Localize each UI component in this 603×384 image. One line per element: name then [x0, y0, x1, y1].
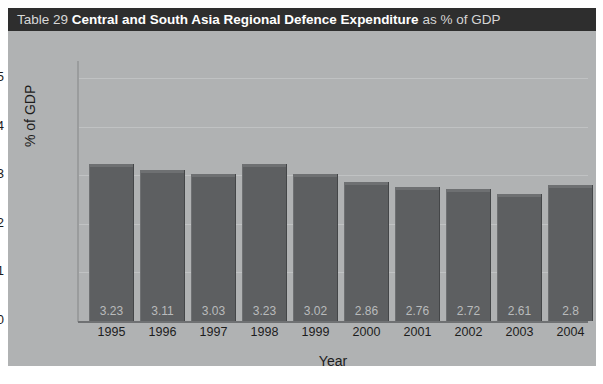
bar[interactable]: 3.23 [242, 164, 287, 321]
bar-top-edge [90, 164, 133, 167]
bar-value-label: 2.76 [396, 304, 439, 318]
bar-value-label: 2.61 [498, 304, 541, 318]
bar-value-label: 3.23 [90, 304, 133, 318]
bar[interactable]: 3.02 [293, 174, 338, 321]
y-axis-tick-label: 5 [0, 69, 4, 84]
y-axis-line [77, 61, 79, 322]
bar-value-label: 3.03 [192, 304, 235, 318]
bar-top-edge [447, 189, 490, 192]
y-axis-tick-label: 1 [0, 263, 4, 278]
x-axis-tick-label: 1999 [293, 325, 338, 339]
bar-top-edge [294, 174, 337, 177]
chart-title-bar: Table 29 Central and South Asia Regional… [8, 8, 596, 31]
x-axis-tick-label: 2001 [395, 325, 440, 339]
y-axis-tick-label: 3 [0, 166, 4, 181]
y-axis-tick-label: 0 [0, 312, 4, 327]
x-axis-tick-label: 1995 [89, 325, 134, 339]
bar-top-edge [243, 164, 286, 167]
bar-top-edge [549, 185, 592, 188]
chart-title-main: Central and South Asia Regional Defence … [72, 12, 419, 27]
y-axis-tick-label: 2 [0, 215, 4, 230]
y-axis-tick-label: 4 [0, 118, 4, 133]
bar[interactable]: 2.72 [446, 189, 491, 321]
bar-top-edge [396, 187, 439, 190]
bar[interactable]: 3.23 [89, 164, 134, 321]
bar[interactable]: 2.61 [497, 194, 542, 321]
bar-top-edge [192, 174, 235, 177]
bar-top-edge [345, 182, 388, 185]
x-axis-title: Year [78, 353, 588, 369]
bar-top-edge [498, 194, 541, 197]
bar[interactable]: 2.8 [548, 185, 593, 321]
x-axis-tick-label: 2000 [344, 325, 389, 339]
x-axis-tick-label: 1997 [191, 325, 236, 339]
bar[interactable]: 2.76 [395, 187, 440, 321]
gridline [78, 78, 588, 79]
x-axis-tick-label: 2003 [497, 325, 542, 339]
bar-value-label: 3.02 [294, 304, 337, 318]
bar[interactable]: 2.86 [344, 182, 389, 321]
x-axis-line [78, 321, 588, 323]
chart-plot-panel: % of GDP 012345 3.233.113.033.233.022.86… [8, 31, 596, 366]
table-number: Table 29 [17, 12, 68, 27]
bar-top-edge [141, 170, 184, 173]
plot-area: 012345 3.233.113.033.233.022.862.762.722… [78, 61, 588, 345]
bar-value-label: 2.86 [345, 304, 388, 318]
bar[interactable]: 3.03 [191, 174, 236, 321]
y-axis-title: % of GDP [22, 85, 38, 147]
figure-panel: Table 29 Central and South Asia Regional… [8, 8, 596, 366]
chart-title-suffix: as % of GDP [422, 12, 500, 27]
x-axis-tick-label: 1996 [140, 325, 185, 339]
bar-value-label: 3.11 [141, 304, 184, 318]
x-axis-tick-label: 1998 [242, 325, 287, 339]
x-axis-tick-label: 2002 [446, 325, 491, 339]
gridline [78, 127, 588, 128]
bar-value-label: 2.8 [549, 304, 592, 318]
bar[interactable]: 3.11 [140, 170, 185, 321]
x-axis-tick-label: 2004 [548, 325, 593, 339]
bar-value-label: 2.72 [447, 304, 490, 318]
bar-value-label: 3.23 [243, 304, 286, 318]
